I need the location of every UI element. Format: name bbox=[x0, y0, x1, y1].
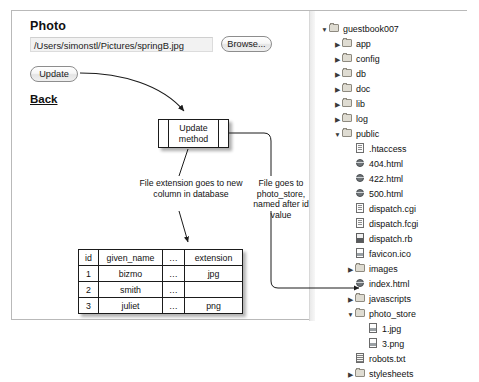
tree-item-config[interactable]: ▶config bbox=[320, 52, 466, 67]
column-header-ellipsis: … bbox=[163, 250, 185, 266]
photo-field-label: Photo bbox=[30, 19, 66, 33]
tree-item-label: public bbox=[356, 129, 379, 139]
tree-item-dispatch-rb[interactable]: dispatch.rb bbox=[320, 232, 466, 247]
tree-item-label: doc bbox=[356, 84, 370, 94]
line-method-to-extension-note bbox=[179, 149, 188, 176]
twisty-closed-icon[interactable]: ▶ bbox=[333, 112, 342, 127]
tree-item-dispatch-fcgi[interactable]: dispatch.fcgi bbox=[320, 217, 466, 232]
tree-item-index-html[interactable]: index.html bbox=[320, 277, 466, 292]
photo-path-input[interactable]: /Users/simonstl/Pictures/springB.jpg bbox=[30, 37, 213, 52]
arrow-update-to-method bbox=[80, 73, 184, 111]
tree-item-label: 500.html bbox=[369, 189, 403, 199]
twisty-open-icon[interactable]: ▼ bbox=[333, 127, 342, 142]
tree-item-log[interactable]: ▶log bbox=[320, 112, 466, 127]
tree-item-public[interactable]: ▼public bbox=[320, 127, 466, 142]
twisty-open-icon[interactable]: ▼ bbox=[320, 22, 329, 37]
cell-extension: png bbox=[185, 298, 243, 314]
folder-icon bbox=[342, 113, 353, 123]
tree-item-label: stylesheets bbox=[369, 369, 413, 379]
twisty-closed-icon[interactable]: ▶ bbox=[333, 67, 342, 82]
web-page-icon bbox=[355, 278, 366, 288]
tree-item-3-png[interactable]: 3.png bbox=[320, 337, 466, 352]
tree-item-label: robots.txt bbox=[369, 354, 406, 364]
tree-item-label: 422.html bbox=[369, 174, 403, 184]
browse-button[interactable]: Browse... bbox=[221, 36, 272, 52]
cell-extension bbox=[185, 282, 243, 298]
tree-item-label: db bbox=[356, 69, 366, 79]
cell-id: 2 bbox=[79, 282, 99, 298]
twisty-closed-icon[interactable]: ▶ bbox=[346, 367, 355, 382]
tree-item-label: dispatch.fcgi bbox=[369, 219, 418, 229]
image-file-icon bbox=[355, 248, 366, 258]
box-right-bar bbox=[218, 120, 219, 147]
tree-item-label: 404.html bbox=[369, 159, 403, 169]
document-icon bbox=[355, 143, 366, 153]
cell-givenname: bizmo bbox=[99, 266, 163, 282]
cell-id: 1 bbox=[79, 266, 99, 282]
tree-item-doc[interactable]: ▶doc bbox=[320, 82, 466, 97]
tree-item-dispatch-cgi[interactable]: dispatch.cgi bbox=[320, 202, 466, 217]
text-file-icon bbox=[355, 353, 366, 363]
tree-item-db[interactable]: ▶db bbox=[320, 67, 466, 82]
update-method-label: Update method bbox=[170, 123, 217, 145]
tree-item-label: .htaccess bbox=[369, 144, 407, 154]
twisty-closed-icon[interactable]: ▶ bbox=[333, 52, 342, 67]
tree-item--htaccess[interactable]: .htaccess bbox=[320, 142, 466, 157]
image-file-icon bbox=[368, 323, 379, 333]
tree-item-label: lib bbox=[356, 99, 365, 109]
twisty-closed-icon[interactable]: ▶ bbox=[346, 292, 355, 307]
tree-item-1-jpg[interactable]: 1.jpg bbox=[320, 322, 466, 337]
tree-item-label: photo_store bbox=[369, 309, 416, 319]
twisty-closed-icon[interactable]: ▶ bbox=[333, 37, 342, 52]
twisty-closed-icon[interactable]: ▶ bbox=[333, 82, 342, 97]
cell-extension: jpg bbox=[185, 266, 243, 282]
tree-item-500-html[interactable]: 500.html bbox=[320, 187, 466, 202]
tree-item-guestbook007[interactable]: ▼guestbook007 bbox=[320, 22, 466, 37]
folder-icon bbox=[329, 23, 340, 33]
cell-givenname: smith bbox=[99, 282, 163, 298]
image-file-icon bbox=[368, 338, 379, 348]
tree-item-label: 3.png bbox=[382, 339, 404, 349]
table-header-row: id given_name … extension bbox=[79, 250, 243, 266]
tree-item-label: config bbox=[356, 54, 380, 64]
table-row: 3 juliet … png bbox=[79, 298, 243, 314]
column-header-id: id bbox=[79, 250, 99, 266]
twisty-open-icon[interactable]: ▼ bbox=[346, 307, 355, 322]
twisty-closed-icon[interactable]: ▶ bbox=[346, 262, 355, 277]
web-page-icon bbox=[355, 188, 366, 198]
tree-item-photo-store[interactable]: ▼photo_store bbox=[320, 307, 466, 322]
folder-icon bbox=[355, 293, 366, 303]
database-table: id given_name … extension 1 bizmo … jpg … bbox=[78, 249, 243, 314]
cell-ellipsis: … bbox=[163, 298, 185, 314]
back-link[interactable]: Back bbox=[30, 93, 58, 105]
column-header-extension: extension bbox=[185, 250, 243, 266]
tree-item-label: 1.jpg bbox=[382, 324, 401, 334]
tree-item-label: log bbox=[356, 114, 368, 124]
tree-item-images[interactable]: ▶images bbox=[320, 262, 466, 277]
update-method-box: Update method bbox=[158, 119, 229, 148]
tree-item-app[interactable]: ▶app bbox=[320, 37, 466, 52]
box-left-bar bbox=[168, 120, 169, 147]
twisty-closed-icon[interactable]: ▶ bbox=[333, 97, 342, 112]
tree-item-robots-txt[interactable]: robots.txt bbox=[320, 352, 466, 367]
tree-item-favicon-ico[interactable]: favicon.ico bbox=[320, 247, 466, 262]
tree-item-label: index.html bbox=[369, 279, 409, 289]
figure-frame: Photo /Users/simonstl/Pictures/springB.j… bbox=[11, 10, 467, 320]
tree-item-lib[interactable]: ▶lib bbox=[320, 97, 466, 112]
tree-item-422-html[interactable]: 422.html bbox=[320, 172, 466, 187]
tree-item-label: dispatch.rb bbox=[369, 234, 412, 244]
tree-item-javascripts[interactable]: ▶javascripts bbox=[320, 292, 466, 307]
tree-item-label: images bbox=[369, 264, 398, 274]
table-row: 1 bizmo … jpg bbox=[79, 266, 243, 282]
tree-item-label: javascripts bbox=[369, 294, 411, 304]
file-tree[interactable]: ▼guestbook007▶app▶config▶db▶doc▶lib▶log▼… bbox=[320, 22, 466, 382]
folder-icon bbox=[342, 38, 353, 48]
document-icon bbox=[355, 218, 366, 228]
tree-item-stylesheets[interactable]: ▶stylesheets bbox=[320, 367, 466, 382]
folder-icon bbox=[342, 83, 353, 93]
file-tree-scrollbar[interactable] bbox=[310, 11, 315, 321]
table-row: 2 smith … bbox=[79, 282, 243, 298]
tree-item-404-html[interactable]: 404.html bbox=[320, 157, 466, 172]
update-button[interactable]: Update bbox=[30, 66, 78, 82]
update-method-line2: method bbox=[179, 134, 208, 144]
